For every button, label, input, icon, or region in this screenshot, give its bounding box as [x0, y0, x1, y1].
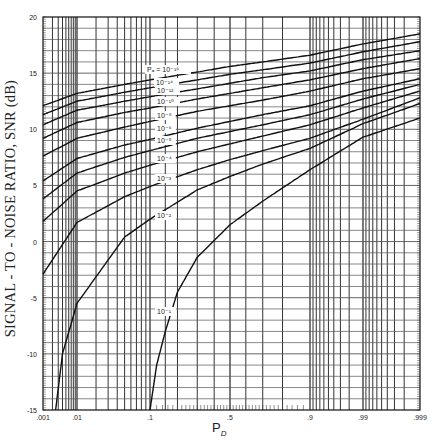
x-axis-tick-labels: .001.01.1.5.9.99.999 [36, 414, 427, 421]
x-tick-label: .99 [358, 414, 368, 421]
x-axis-label: PD [212, 420, 226, 438]
y-tick-label: 5 [33, 182, 37, 189]
x-tick-label: .001 [36, 414, 50, 421]
x-tick-label: .999 [413, 414, 427, 421]
y-axis-label: SIGNAL - TO - NOISE RATIO, SNR (dB) [2, 39, 19, 379]
curve-label: 10⁻³ [157, 175, 172, 182]
curve-labels: Pₐ = 10⁻¹⁶10⁻¹⁴10⁻¹²10⁻¹⁰10⁻⁸10⁻⁶10⁻⁵10⁻… [145, 65, 191, 316]
curve-label: 10⁻¹ [157, 308, 172, 315]
x-tick-label: .9 [307, 414, 313, 421]
x-axis-label-sub: D [221, 429, 227, 438]
x-axis-label-main: P [212, 420, 221, 435]
y-tick-label: 10 [29, 126, 37, 133]
curve-label: 10⁻⁶ [157, 125, 172, 132]
y-tick-label: 20 [29, 14, 37, 21]
curve-label: 10⁻⁵ [157, 137, 172, 144]
curve-label: 10⁻¹⁴ [156, 79, 173, 86]
x-tick-label: .01 [72, 414, 82, 421]
curve-label: 10⁻² [157, 212, 172, 219]
x-tick-label: .5 [227, 414, 233, 421]
y-tick-label: 15 [29, 70, 37, 77]
y-tick-label: 0 [33, 239, 37, 246]
y-tick-label: -10 [27, 351, 37, 358]
curve-label: 10⁻⁸ [157, 112, 172, 119]
x-tick-label: .1 [147, 414, 153, 421]
y-axis-tick-labels: -15-10-505101520 [27, 14, 37, 414]
y-tick-label: -15 [27, 407, 37, 414]
curve-label: Pₐ = 10⁻¹⁶ [147, 66, 179, 73]
curve-label: 10⁻⁴ [157, 155, 172, 162]
curve-label: 10⁻¹⁰ [157, 98, 174, 105]
curve-label: 10⁻¹² [157, 87, 174, 94]
detection-probability-chart: Pₐ = 10⁻¹⁶10⁻¹⁴10⁻¹²10⁻¹⁰10⁻⁸10⁻⁶10⁻⁵10⁻… [0, 0, 436, 445]
grid-lines [43, 17, 420, 410]
y-tick-label: -5 [31, 295, 37, 302]
